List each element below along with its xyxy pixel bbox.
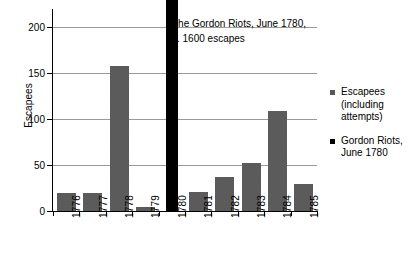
annotation-line-2: c. 1600 escapes [172,31,306,46]
x-axis-label-1779: 1779 [150,168,161,218]
y-tick-mark [47,119,52,120]
y-tick-mark [47,27,52,28]
legend-item-label: Escapees (including attempts) [341,86,418,124]
x-axis-label-1785: 1785 [309,168,320,218]
legend-item-label: Gordon Riots, June 1780 [341,135,418,160]
x-axis-label-1783: 1783 [256,168,267,218]
x-axis-label-1781: 1781 [203,168,214,218]
legend-item-2[interactable]: Gordon Riots, June 1780 [330,135,418,160]
x-axis-labels-group: 1776177717781779178017811782178317841785 [53,218,317,268]
annotation-line-1: The Gordon Riots, June 1780, [172,16,306,31]
x-axis-label-1780: 1780 [177,168,188,218]
y-tick-mark [47,165,52,166]
x-axis-label-1778: 1778 [124,168,135,218]
legend-item-1[interactable]: Escapees (including attempts) [330,86,418,124]
x-axis-label-1777: 1777 [98,168,109,218]
y-tick-mark [47,73,52,74]
x-axis-label-1776: 1776 [71,168,82,218]
y-tick-mark [47,211,52,212]
y-tick-label: 200 [5,22,45,33]
y-tick-label: 0 [5,206,45,217]
x-axis-label-1782: 1782 [230,168,241,218]
y-tick-label: 100 [5,114,45,125]
y-tick-label: 50 [5,160,45,171]
legend-swatch-icon [330,90,335,95]
y-tick-label: 150 [5,68,45,79]
x-tick-mark-1776 [53,211,54,216]
legend-swatch-icon [330,139,335,144]
gordon-riots-annotation: The Gordon Riots, June 1780, c. 1600 esc… [172,16,306,46]
x-axis-label-1784: 1784 [282,168,293,218]
bar-chart: Escapees 200150100500 177617771778177917… [0,0,419,272]
chart-legend: Escapees (including attempts)Gordon Riot… [330,86,418,171]
